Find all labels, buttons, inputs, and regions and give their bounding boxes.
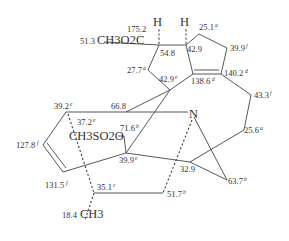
label-c66: 66.8 [111,101,126,111]
label-c127: 127.8 [16,140,35,150]
superscript-label: e [93,117,96,123]
superscript-label: a [215,22,218,28]
label-c43: 43.3 [254,90,269,100]
superscript-label: e [135,155,138,161]
superscript-label: e [175,74,178,80]
superscript-label: b [244,176,247,182]
label-mesyl: CH3SO2O [69,129,124,143]
label-methyl: CH3 [80,207,104,221]
label-c39-9f: 39.9 [230,43,245,53]
label-n: N [189,107,198,121]
superscript-label: a [143,65,146,71]
superscript-label: f [37,140,40,146]
superscript-label: f [270,90,273,96]
label-c27-7: 27.7 [127,65,142,75]
chemical-structure: 175.2 51.3 CH3O2C H H 54.8 42.9 25.1 a 3… [0,0,289,241]
label-c140: 140.2 [224,68,243,78]
label-c71: 71.6 [120,123,135,133]
superscript-label: f [246,43,249,49]
label-c39-9e: 39.9 [119,155,134,165]
superscript-label: d [212,76,215,82]
superscript-label: f [66,180,69,186]
label-h2: H [180,15,189,29]
superscript-label: b [183,189,186,195]
label-ester-group: CH3O2C [97,33,144,47]
shift-labels: 175.2 51.3 CH3O2C H H 54.8 42.9 25.1 a 3… [16,15,273,221]
label-h1: H [153,15,162,29]
bonds [43,34,251,193]
label-c32: 32.9 [180,164,195,174]
label-c63: 63.7 [228,176,243,186]
label-c138: 138.6 [191,76,210,86]
superscript-label: c [113,182,116,188]
label-c54: 54.8 [160,48,175,58]
label-c39-2: 39.2 [54,101,69,111]
superscript-label: e [70,101,73,107]
label-c42e: 42.9 [159,74,174,84]
label-ester-shift: 51.3 [80,36,95,46]
label-c35: 35.1 [97,182,112,192]
label-methyl-shift: 18.4 [62,210,78,220]
superscript-label: b [136,123,139,129]
label-c37: 37.2 [77,117,92,127]
label-c51: 51.7 [167,189,182,199]
superscript-label: d [245,68,248,74]
label-c131: 131.5 [45,180,64,190]
label-c25-1: 25.1 [199,22,214,32]
superscript-label: a [260,125,263,131]
label-c42a: 42.9 [187,44,202,54]
label-c25-6: 25.6 [244,125,259,135]
